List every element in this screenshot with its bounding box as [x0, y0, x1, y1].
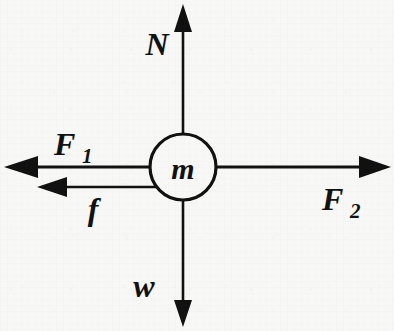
force-vector-f1: F 1 [4, 126, 150, 178]
friction-force-label: f [88, 191, 102, 227]
normal-force-arrowhead [174, 4, 192, 32]
force-vector-f2: F 2 [216, 156, 391, 223]
force-vector-normal: N [144, 4, 192, 134]
normal-force-label: N [144, 26, 170, 62]
weight-force-arrowhead [174, 300, 192, 327]
f1-force-label: F [53, 126, 75, 162]
force-vector-weight: w [133, 200, 192, 327]
weight-force-label: w [133, 268, 155, 304]
friction-force-arrowhead [37, 177, 67, 197]
diagram-canvas: N w F 1 F 2 f m [0, 0, 394, 331]
f1-force-arrowhead [4, 156, 38, 178]
f2-force-subscript: 2 [349, 199, 361, 223]
mass-body-label: m [171, 152, 194, 185]
f2-force-arrowhead [359, 156, 391, 178]
free-body-diagram: N w F 1 F 2 f m [0, 0, 394, 331]
f1-force-subscript: 1 [82, 144, 93, 168]
force-vector-friction: f [37, 177, 164, 227]
f2-force-label: F [321, 181, 343, 217]
